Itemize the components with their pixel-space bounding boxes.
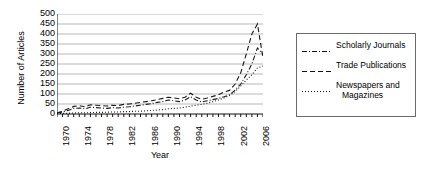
plot-area bbox=[57, 14, 263, 114]
legend-item: Trade Publications bbox=[302, 60, 411, 71]
y-tick-label: 500 bbox=[29, 9, 55, 18]
x-tick-label: 1974 bbox=[83, 126, 93, 146]
x-tick-label: 2002 bbox=[239, 126, 249, 146]
legend-label: Scholarly Journals bbox=[336, 40, 405, 50]
legend-label-line2: Magazines bbox=[336, 90, 400, 100]
y-tick-label: 150 bbox=[29, 79, 55, 88]
legend-line-swatch bbox=[302, 62, 332, 71]
x-tick-label: 1998 bbox=[216, 126, 226, 146]
legend-item: Scholarly Journals bbox=[302, 40, 411, 51]
x-tick-label: 1970 bbox=[61, 126, 71, 146]
x-tick-label: 1986 bbox=[150, 126, 160, 146]
series-line-0 bbox=[57, 48, 263, 113]
y-tick-label: 0 bbox=[29, 109, 55, 118]
legend-label: Trade Publications bbox=[336, 60, 406, 70]
y-axis-title: Number of Articles bbox=[16, 13, 26, 123]
legend-item: Newspapers andMagazines bbox=[302, 80, 411, 100]
x-tick-label: 2006 bbox=[261, 126, 271, 146]
y-tick-label: 350 bbox=[29, 39, 55, 48]
x-tick-label: 1978 bbox=[105, 126, 115, 146]
x-axis-title: Year bbox=[57, 150, 263, 160]
series-line-1 bbox=[57, 24, 263, 113]
x-tick-label: 1994 bbox=[194, 126, 204, 146]
y-tick-label: 50 bbox=[29, 99, 55, 108]
y-tick-label: 250 bbox=[29, 59, 55, 68]
y-tick-label: 400 bbox=[29, 29, 55, 38]
legend-line-swatch bbox=[302, 42, 332, 51]
legend-line-swatch bbox=[302, 82, 332, 91]
series-line-2 bbox=[57, 66, 263, 114]
y-tick-label: 300 bbox=[29, 49, 55, 58]
x-axis-tick-labels: 1970197419781982198619901994199820022006 bbox=[57, 116, 267, 150]
chart-legend: Scholarly JournalsTrade PublicationsNews… bbox=[296, 33, 416, 117]
chart-figure: Number of Articles 050100150200250300350… bbox=[0, 0, 422, 174]
y-tick-label: 100 bbox=[29, 89, 55, 98]
legend-label: Newspapers andMagazines bbox=[336, 80, 400, 100]
y-tick-label: 200 bbox=[29, 69, 55, 78]
x-tick-label: 1990 bbox=[172, 126, 182, 146]
line-chart-svg bbox=[57, 14, 263, 118]
y-axis-tick-labels: 050100150200250300350400450500 bbox=[26, 0, 55, 174]
x-tick-label: 1982 bbox=[127, 126, 137, 146]
y-tick-label: 450 bbox=[29, 19, 55, 28]
